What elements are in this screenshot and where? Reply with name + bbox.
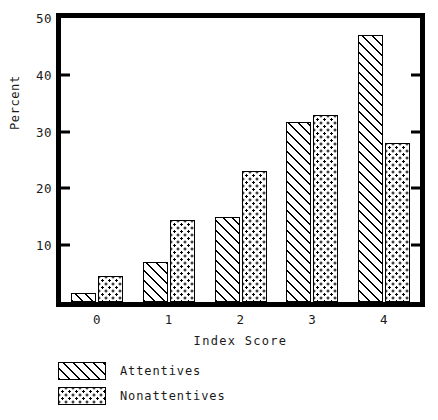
x-axis-title: Index Score: [56, 334, 425, 348]
y-axis-tick-label: 40: [24, 67, 52, 82]
x-axis-tick-labels: 01234: [56, 312, 425, 332]
bar-attentives-4: [358, 35, 383, 302]
y-axis-tick-label: 20: [24, 181, 52, 196]
bar-nonattentives-4: [385, 143, 410, 302]
y-axis-tick-mark: [61, 130, 70, 133]
y-axis-tick-label: 50: [24, 11, 52, 26]
plot-area: [61, 18, 420, 302]
x-axis-tick-label: 2: [226, 312, 256, 327]
y-axis-tick-mark: [61, 73, 70, 76]
y-axis-tick-mark-right: [411, 73, 420, 76]
bar-nonattentives-3: [313, 115, 338, 302]
chart-legend: AttentivesNonattentives: [58, 361, 388, 411]
plot-frame: [56, 13, 425, 307]
x-axis-tick-label: 0: [82, 312, 112, 327]
y-axis-tick-mark-right: [411, 244, 420, 247]
y-axis-tick-label: 30: [24, 124, 52, 139]
y-axis-tick-mark: [61, 187, 70, 190]
y-axis-tick-mark: [61, 244, 70, 247]
legend-item: Attentives: [58, 361, 388, 383]
y-axis-tick-label: 10: [24, 238, 52, 253]
legend-label: Nonattentives: [120, 389, 226, 403]
bar-nonattentives-1: [170, 220, 195, 302]
y-axis-tick-labels: 1020304050: [20, 0, 52, 420]
bar-attentives-0: [71, 293, 96, 302]
legend-swatch-nonattentives: [58, 387, 106, 405]
legend-label: Attentives: [120, 364, 201, 378]
x-axis-tick-label: 4: [369, 312, 399, 327]
bar-chart: Percent 1020304050 01234 Index Score Att…: [0, 0, 438, 420]
bar-nonattentives-0: [98, 276, 123, 302]
bar-attentives-1: [143, 262, 168, 302]
legend-item: Nonattentives: [58, 386, 388, 408]
y-axis-tick-mark-right: [411, 187, 420, 190]
bar-attentives-2: [215, 217, 240, 302]
x-axis-tick-label: 1: [154, 312, 184, 327]
y-axis-tick-mark-right: [411, 130, 420, 133]
legend-swatch-attentives: [58, 362, 106, 380]
x-axis-tick-label: 3: [297, 312, 327, 327]
bar-nonattentives-2: [242, 171, 267, 302]
bar-attentives-3: [286, 122, 311, 302]
